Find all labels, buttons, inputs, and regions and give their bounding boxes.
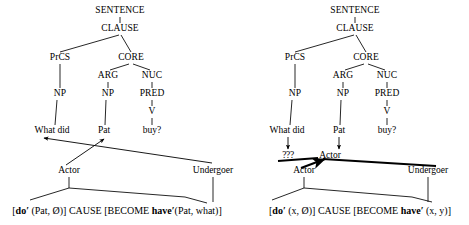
connector-pred-right-left bbox=[185, 197, 207, 203]
left-tree-ls-connectors bbox=[30, 177, 213, 203]
sentence-word: Pat bbox=[98, 126, 110, 136]
connector-actor-to-arg-right bbox=[272, 188, 304, 200]
edge-np-whatdid bbox=[55, 100, 57, 125]
connector-pred-right-right bbox=[412, 197, 432, 202]
sentence-word: What did bbox=[34, 126, 69, 136]
connector-actor-to-pred-right bbox=[304, 188, 412, 197]
tree-node-sentence: SENTENCE bbox=[330, 6, 379, 16]
tree-node-np: NP bbox=[337, 89, 349, 99]
tree-node-arg: ARG bbox=[98, 71, 118, 81]
sentence-word: Pat bbox=[333, 126, 345, 136]
edge-clause-core-r bbox=[356, 35, 366, 52]
edge-core-nuc bbox=[133, 64, 150, 70]
macrorole-actor: Actor bbox=[293, 166, 315, 176]
left-tree-role-arrows bbox=[44, 138, 212, 165]
tree-node-prcs: PrCS bbox=[50, 53, 70, 63]
sentence-word: What did bbox=[269, 126, 304, 136]
edge-core-arg-r bbox=[345, 64, 364, 70]
actor-link-arrow-left bbox=[66, 139, 104, 165]
tree-node-nuc: NUC bbox=[377, 71, 397, 81]
edge-clause-prcs bbox=[60, 35, 119, 52]
undergoer-link-arrow-left bbox=[44, 138, 212, 163]
right-tree-ls-connectors bbox=[272, 177, 432, 202]
tree-node-nuc: NUC bbox=[142, 71, 162, 81]
edge-clause-prcs-r bbox=[295, 35, 354, 52]
unknown-role-marker: ??? bbox=[282, 151, 294, 161]
tree-node-clause: CLAUSE bbox=[101, 24, 139, 34]
tree-node-sentence: SENTENCE bbox=[95, 6, 144, 16]
edge-np-pat-r bbox=[340, 100, 341, 125]
tree-node-v: V bbox=[384, 107, 391, 117]
edge-np-whatdid-r bbox=[290, 100, 292, 125]
tree-node-prcs: PrCS bbox=[285, 53, 305, 63]
macrorole-undergoer: Undergoer bbox=[193, 166, 233, 176]
right-tree-down-arrows bbox=[288, 137, 339, 149]
tree-node-core: CORE bbox=[353, 53, 379, 63]
edge-np-pat bbox=[105, 100, 106, 125]
logical-structure: [do′ (x, Ø)] CAUSE [BECOME have′ (x, y)] bbox=[269, 206, 451, 216]
tree-node-pred: PRED bbox=[375, 89, 400, 99]
tree-node-np: NP bbox=[54, 89, 66, 99]
sentence-word: buy? bbox=[143, 126, 161, 136]
logical-structure: [do′ (Pat, Ø)] CAUSE [BECOME have′(Pat, … bbox=[12, 206, 222, 216]
tree-node-v: V bbox=[149, 107, 156, 117]
macrorole-actor: Actor bbox=[58, 166, 80, 176]
edge-core-arg bbox=[110, 64, 129, 70]
macrorole-undergoer: Undergoer bbox=[408, 166, 448, 176]
connector-actor-to-pred-left bbox=[69, 188, 185, 197]
tree-node-clause: CLAUSE bbox=[336, 24, 374, 34]
connector-actor-to-arg-left bbox=[30, 188, 69, 200]
tree-node-pred: PRED bbox=[140, 89, 165, 99]
tree-node-arg: ARG bbox=[333, 71, 353, 81]
edge-clause-core bbox=[121, 35, 131, 52]
tree-node-np: NP bbox=[289, 89, 301, 99]
tree-node-np: NP bbox=[102, 89, 114, 99]
sentence-word: buy? bbox=[378, 126, 396, 136]
mid-role-label: Actor bbox=[319, 151, 341, 161]
edge-core-nuc-r bbox=[368, 64, 385, 70]
tree-node-core: CORE bbox=[118, 53, 144, 63]
rrg-tree-diagram bbox=[0, 0, 469, 225]
